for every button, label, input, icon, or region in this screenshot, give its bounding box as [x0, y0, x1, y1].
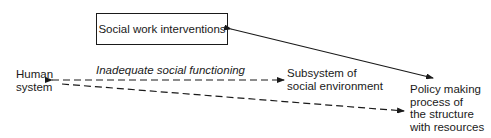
interventions-label: Social work interventions	[98, 23, 225, 35]
subsystem-label: Subsystem of social environment	[287, 67, 383, 92]
social-work-interventions-box: Social work interventions	[96, 13, 228, 45]
policy-making-label: Policy making process of the structure w…	[410, 83, 484, 133]
human-system-label: Human system	[16, 68, 53, 93]
inadequate-functioning-label: Inadequate social functioning	[96, 64, 245, 77]
